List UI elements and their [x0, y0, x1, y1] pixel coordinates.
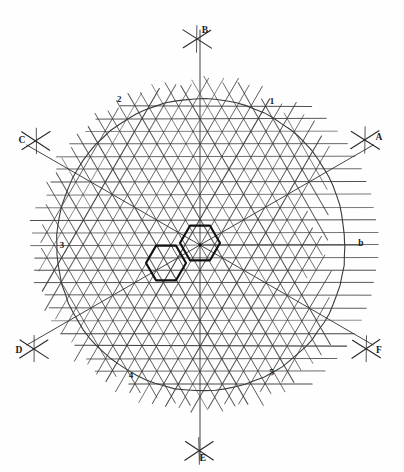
horizontal-lines-line	[96, 118, 326, 119]
diagonal-lines-down-line	[42, 248, 116, 376]
axis-label-A: A	[376, 132, 383, 142]
horizontal-lines-line	[35, 258, 378, 259]
diagonal-lines-up-line	[88, 85, 249, 364]
diagonal-lines-up-line	[191, 211, 307, 412]
index-labels: 12345	[60, 94, 275, 380]
diagonal-lines-up-line	[56, 85, 192, 319]
axis-label-B: B	[202, 25, 209, 35]
index-label-1: 1	[270, 96, 275, 106]
diagonal-lines-up-line	[152, 121, 314, 404]
axis-label-D: D	[16, 345, 23, 355]
diagonal-lines-down-line	[152, 85, 313, 364]
lattice-hatching	[30, 76, 378, 412]
geometry-figure: BAbFEDC12345	[0, 0, 404, 472]
cross-mark-D[interactable]	[20, 336, 49, 362]
diagonal-lines-up-line	[282, 298, 329, 382]
diagonal-lines-down-line	[46, 205, 157, 398]
diagonal-lines-down-line	[181, 86, 330, 345]
diagonal-lines-up-line	[72, 78, 224, 342]
index-label-3: 3	[60, 240, 65, 250]
index-label-4: 4	[129, 370, 134, 380]
diagonal-lines-down-line	[47, 182, 176, 403]
diagram-canvas: BAbFEDC12345	[0, 0, 404, 472]
diagonal-lines-down-line	[62, 158, 208, 410]
axis-label-b: b	[358, 238, 363, 248]
diagonal-lines-down-line	[165, 83, 321, 355]
diagonal-lines-down-line	[88, 126, 248, 404]
diagonal-lines-down-line	[284, 113, 327, 189]
diagonal-lines-down-line	[204, 76, 316, 269]
horizontal-lines-line	[87, 358, 337, 359]
index-label-2: 2	[117, 94, 123, 104]
origin-point	[198, 243, 201, 246]
diagonal-lines-down-line	[108, 111, 271, 393]
horizontal-lines-line	[32, 232, 378, 233]
axis-label-C: C	[19, 135, 26, 145]
horizontal-lines-line	[47, 194, 371, 195]
horizontal-lines-line	[30, 220, 375, 221]
axis-label-E: E	[200, 453, 206, 463]
axis-label-F: F	[376, 345, 382, 355]
axis-ray-A[interactable]	[200, 145, 373, 245]
